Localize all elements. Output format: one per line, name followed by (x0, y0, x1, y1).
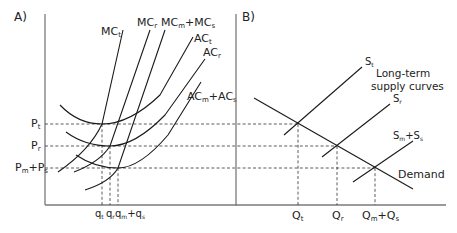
ac-t-curve (60, 37, 193, 124)
demand-curve (254, 98, 413, 189)
panel-a: A) MCt MCr MCm+MCs ACt (14, 10, 375, 220)
mc-r-label: MCr (137, 16, 157, 30)
ac-t-label: ACt (194, 32, 212, 46)
supply-curve-r (322, 104, 390, 157)
demand-label: Demand (398, 168, 445, 181)
qty-label-b-ms: Qm+Qs (362, 209, 399, 223)
price-label-ms: Pm+Ps (15, 161, 48, 175)
mc-t-label: MCt (101, 25, 121, 39)
mc-r-curve (74, 30, 150, 172)
qty-label-b-t: Qt (292, 209, 304, 223)
ac-r-label: ACr (203, 46, 221, 60)
supply-curve-t (284, 67, 362, 135)
qty-label-b-r: Qr (332, 209, 344, 223)
qty-label-r: qr (106, 208, 115, 220)
qty-label-t: qt (95, 208, 104, 220)
supply-ms-label: Sm+Ss (393, 130, 423, 142)
mc-t-curve (58, 30, 123, 172)
mc-ms-label: MCm+MCs (161, 16, 215, 30)
annotation-line-1: Long-term (376, 67, 430, 79)
panel-b-label: B) (242, 10, 255, 24)
supply-cost-diagram: A) MCt MCr MCm+MCs ACt (0, 0, 457, 233)
panel-b: B) St Sr Sm+Ss Demand Long-term supply c… (236, 10, 446, 223)
ac-ms-curve (76, 82, 201, 168)
panel-a-label: A) (14, 10, 27, 24)
annotation-line-2: supply curves (371, 80, 444, 92)
price-label-t: Pt (31, 117, 41, 131)
supply-r-label: Sr (393, 93, 402, 105)
price-label-r: Pr (31, 139, 41, 153)
mc-ms-curve (85, 30, 165, 190)
ac-ms-label: ACm+ACs (187, 90, 237, 104)
qty-label-ms: qm+qs (115, 208, 145, 220)
supply-t-label: St (365, 56, 374, 68)
